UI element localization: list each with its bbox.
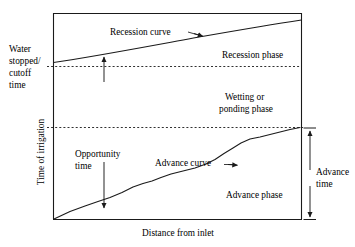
advance-time-label-line2: time (316, 179, 333, 189)
water-stopped-label-line2: stopped/ (9, 56, 41, 66)
figure-container: Recession curve Recession phase Wetting … (0, 0, 355, 247)
advance-phase-label: Advance phase (226, 190, 283, 200)
advance-curve-label: Advance curve (155, 158, 211, 168)
recession-phase-label: Recession phase (222, 50, 283, 60)
recession-curve-leader-arrow (194, 34, 203, 37)
advance-time-label-line1: Advance (316, 167, 349, 177)
water-stopped-label-line4: time (9, 80, 26, 90)
irrigation-phase-diagram: Recession curve Recession phase Wetting … (0, 0, 355, 247)
y-axis-title: Time of irrigation (36, 119, 46, 186)
wetting-phase-label-line2: ponding phase (219, 104, 273, 114)
water-stopped-label-line1: Water (9, 44, 32, 54)
water-stopped-label-line3: cutoff (9, 68, 32, 78)
opportunity-time-label-line1: Opportunity (75, 149, 121, 159)
advance-curve-leader-arrow (228, 165, 238, 166)
opportunity-time-label-line2: time (75, 161, 92, 171)
recession-curve-label: Recession curve (110, 27, 171, 37)
x-axis-title: Distance from inlet (142, 228, 214, 238)
advance-curve-line (54, 128, 300, 220)
wetting-phase-label-line1: Wetting or (225, 92, 265, 102)
